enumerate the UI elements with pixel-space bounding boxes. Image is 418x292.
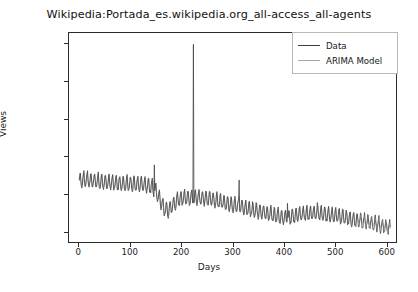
x-tick-label: 600 (379, 247, 395, 257)
x-tick-label: 200 (173, 247, 189, 257)
chart-figure: Wikipedia:Portada_es.wikipedia.org_all-a… (0, 0, 418, 292)
x-tick-label: 500 (327, 247, 343, 257)
legend-item-data: Data (298, 38, 391, 53)
chart-title: Wikipedia:Portada_es.wikipedia.org_all-a… (0, 8, 418, 21)
legend-item-arima-model: ARIMA Model (298, 53, 391, 68)
chart-legend: Data ARIMA Model (292, 32, 398, 74)
legend-swatch-arima-model (298, 60, 320, 61)
x-tick-label: 100 (121, 247, 137, 257)
x-tick-label: 400 (276, 247, 292, 257)
legend-swatch-data (298, 45, 320, 46)
y-axis-label: Views (0, 111, 8, 137)
x-tick-label: 0 (76, 247, 81, 257)
x-tick-label: 300 (224, 247, 240, 257)
x-axis-label: Days (0, 262, 418, 272)
legend-label-arima-model: ARIMA Model (326, 56, 382, 66)
legend-label-data: Data (326, 41, 347, 51)
